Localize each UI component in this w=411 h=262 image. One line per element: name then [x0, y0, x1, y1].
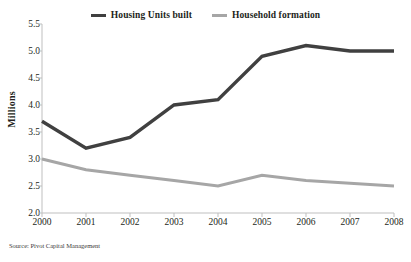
- y-tick-label: 5.0: [14, 46, 40, 56]
- legend-swatch-household-formation: [212, 14, 227, 17]
- y-tick-label: 3.5: [14, 127, 40, 137]
- x-tick-label: 2006: [286, 216, 326, 228]
- y-tick-label: 4.5: [14, 73, 40, 83]
- legend-entry-household-formation: Household formation: [212, 10, 320, 20]
- series-line-housing-units-built: [42, 159, 394, 186]
- housing-chart-figure: Housing Units built Household formation …: [0, 0, 411, 262]
- legend-label-household-formation: Household formation: [232, 10, 320, 20]
- legend-entry-housing-units-built: Housing Units built: [91, 10, 192, 20]
- x-tick-label: 2005: [242, 216, 282, 228]
- legend-swatch-housing-units-built: [91, 14, 106, 17]
- y-tick-label: 3.0: [14, 154, 40, 164]
- y-tick-label: 4.0: [14, 100, 40, 110]
- x-tick-label: 2007: [330, 216, 370, 228]
- series-line-household-formation: [42, 46, 394, 149]
- plot-svg: [42, 24, 394, 213]
- x-tick-label: 2002: [110, 216, 150, 228]
- source-note: Source: Pivot Capital Management: [9, 241, 100, 250]
- plot-area: [42, 24, 394, 213]
- y-axis-tick-labels: 5.55.04.54.03.53.02.52.0: [10, 24, 40, 213]
- x-tick-label: 2001: [66, 216, 106, 228]
- chart-legend: Housing Units built Household formation: [0, 6, 411, 24]
- x-axis-tick-labels: 200020012002200320042005200620072008: [42, 216, 394, 232]
- x-tick-label: 2003: [154, 216, 194, 228]
- x-tick-label: 2004: [198, 216, 238, 228]
- y-tick-label: 2.5: [14, 181, 40, 191]
- x-tick-label: 2008: [374, 216, 411, 228]
- y-tick-label: 5.5: [14, 19, 40, 29]
- legend-label-housing-units-built: Housing Units built: [111, 10, 192, 20]
- x-tick-label: 2000: [22, 216, 62, 228]
